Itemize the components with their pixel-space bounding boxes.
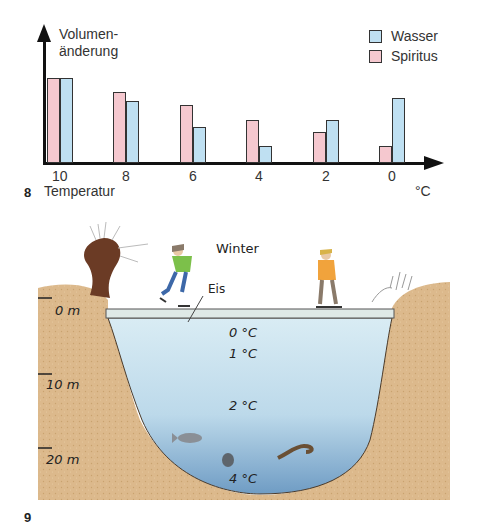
bar-spiritus-0: [379, 146, 392, 163]
season-label: Winter: [216, 241, 259, 256]
temp-label-2c: 2 °C: [229, 398, 257, 413]
x-axis-unit: °C: [415, 183, 431, 199]
depth-label-20m: 20 m: [46, 452, 79, 467]
figure-number-9: 9: [24, 510, 31, 525]
x-tick-10: 10: [52, 168, 68, 184]
small-fish-icon: [222, 453, 234, 467]
skater-left-icon: [160, 244, 192, 306]
x-tick-8: 8: [122, 168, 130, 184]
depth-label-10m: 10 m: [46, 377, 79, 392]
temp-label-1c: 1 °C: [229, 346, 257, 361]
x-tick-0: 0: [388, 168, 396, 184]
figure-number-8: 8: [24, 185, 31, 200]
bar-wasser-0: [392, 98, 405, 163]
bar-wasser-6: [193, 127, 206, 163]
bar-groups: [0, 0, 477, 163]
temp-label-4c: 4 °C: [229, 471, 257, 486]
bar-wasser-10: [60, 78, 73, 163]
x-axis-label: Temperatur: [44, 183, 115, 199]
bar-wasser-2: [326, 120, 339, 163]
bar-spiritus-8: [113, 92, 126, 163]
ice-label: Eis: [208, 282, 225, 296]
depth-label-0m: 0 m: [55, 303, 80, 318]
skater-right-icon: [316, 249, 342, 307]
figure-8-bar-chart: Volumen- änderung Wasser Spiritus 108642…: [0, 0, 477, 210]
bar-spiritus-10: [47, 78, 60, 163]
bar-wasser-4: [259, 146, 272, 163]
bar-spiritus-2: [313, 132, 326, 163]
temp-label-0c: 0 °C: [229, 325, 257, 340]
bar-spiritus-6: [180, 105, 193, 163]
figure-9-lake-illustration: Winter Eis 0 m 10 m 20 m 0 °C 1 °C 2 °C …: [0, 215, 477, 531]
x-tick-2: 2: [322, 168, 330, 184]
x-tick-6: 6: [189, 168, 197, 184]
x-tick-4: 4: [255, 168, 263, 184]
bar-spiritus-4: [246, 120, 259, 163]
ice-layer: [106, 309, 394, 318]
bar-wasser-8: [126, 101, 139, 163]
